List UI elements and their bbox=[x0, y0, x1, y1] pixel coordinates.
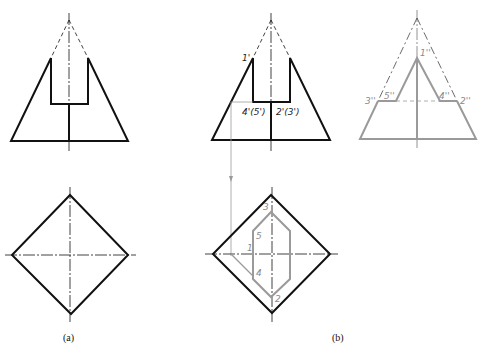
hidden-edge bbox=[253, 20, 271, 58]
label-4-5-prime: 4'(5') bbox=[242, 107, 265, 117]
hidden-edge bbox=[51, 20, 69, 58]
label-5-double-prime: 5'' bbox=[384, 91, 395, 101]
label-2-3-prime: 2'(3') bbox=[276, 107, 299, 117]
label-3: 3 bbox=[263, 202, 269, 212]
hidden-edge bbox=[271, 20, 290, 58]
view-b-front: 1' 4'(5') 2'(3') bbox=[212, 13, 330, 256]
label-2-double-prime: 2'' bbox=[460, 96, 471, 106]
section-line bbox=[231, 254, 253, 276]
label-4: 4 bbox=[256, 268, 262, 278]
drawing-canvas: (a) 1' 4'(5') 2'(3') 3 5 1 4 2 (b) bbox=[0, 0, 484, 357]
hexagon-section bbox=[253, 212, 290, 297]
view-b-side: 1'' 3'' 5'' 4'' 2'' bbox=[360, 10, 476, 150]
label-3-double-prime: 3'' bbox=[365, 96, 376, 106]
caption-b: (b) bbox=[332, 332, 344, 344]
caption-a: (a) bbox=[63, 332, 74, 344]
label-4-double-prime: 4'' bbox=[439, 91, 450, 101]
label-2: 2 bbox=[275, 294, 281, 304]
label-1-double-prime: 1'' bbox=[420, 48, 431, 58]
view-b-top: 3 5 1 4 2 bbox=[205, 187, 338, 322]
label-1-prime: 1' bbox=[242, 53, 250, 63]
slot-outline bbox=[51, 58, 88, 104]
hidden-edge bbox=[69, 20, 88, 58]
removed-edge bbox=[378, 18, 417, 101]
arrow-icon bbox=[229, 176, 233, 182]
removed-edge bbox=[417, 18, 457, 101]
label-1: 1 bbox=[247, 243, 253, 253]
label-5: 5 bbox=[256, 231, 262, 241]
slot-outline bbox=[253, 58, 290, 102]
view-a-front bbox=[11, 13, 128, 152]
view-a-top bbox=[5, 187, 136, 322]
